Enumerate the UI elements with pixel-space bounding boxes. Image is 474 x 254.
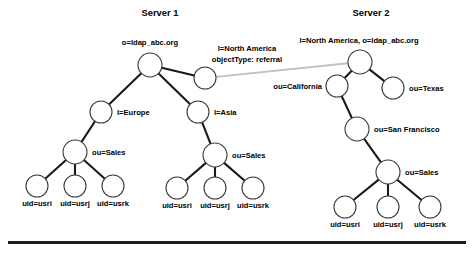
tree-node-s1-asia	[187, 101, 209, 123]
tree-node-s1-eu-sales	[63, 140, 87, 164]
node-label-lbl-s1-ref-2: objectType: referral	[212, 55, 282, 64]
tree-edge	[397, 180, 421, 200]
tree-edge	[159, 73, 191, 104]
tree-node-s1-root	[138, 53, 162, 77]
tree-edge	[82, 121, 95, 142]
tree-edge	[342, 96, 352, 118]
tree-node-s1-as-usrk	[242, 177, 264, 199]
tree-edge	[185, 163, 206, 181]
node-label-lbl-s1-ref-1: l=North America	[218, 44, 277, 53]
node-label-lbl-s1-eu-sales: ou=Sales	[92, 148, 126, 157]
node-label-lbl-s2-sales: ou=Sales	[405, 168, 439, 177]
tree-node-s1-eu-usrk	[102, 175, 124, 197]
node-label-lbl-s1-asia: l=Asia	[214, 108, 237, 117]
tree-node-s1-europe	[90, 101, 112, 123]
tree-node-s2-root	[348, 50, 372, 74]
tree-node-s1-as-sales	[203, 143, 227, 167]
tree-edge	[224, 163, 245, 181]
tree-node-s1-eu-usri	[26, 175, 48, 197]
tree-edge	[345, 71, 352, 78]
tree-edge	[364, 139, 381, 163]
referral-edge	[216, 63, 348, 77]
tree-node-s1-eu-usrj	[64, 175, 86, 197]
node-label-lbl-s2-sanfran: ou=San Francisco	[374, 125, 440, 134]
server-titles-layer: Server 1Server 2	[141, 7, 389, 18]
node-label-lbl-s1-europe: l=Europe	[117, 108, 150, 117]
tree-node-s2-sanfran	[345, 117, 369, 141]
tree-edge	[45, 160, 66, 179]
node-label-lbl-s1-as-sales: ou=Sales	[232, 151, 266, 160]
tree-node-s2-sales	[376, 160, 400, 184]
node-label-lbl-s1-as-usrj: uid=usrj	[200, 201, 230, 210]
tree-edge	[354, 180, 379, 200]
tree-node-s2-usrk	[419, 196, 441, 218]
referral-edge-layer	[216, 63, 348, 77]
node-label-lbl-s1-eu-usri: uid=usri	[22, 199, 52, 208]
tree-node-s1-as-usrj	[204, 177, 226, 199]
node-label-lbl-s1-eu-usrk: uid=usrk	[97, 199, 130, 208]
tree-node-s2-usri	[334, 196, 356, 218]
node-label-lbl-s2-root: l=North America, o=ldap_abc.org	[299, 36, 419, 45]
node-label-lbl-s1-as-usrk: uid=usrk	[237, 201, 270, 210]
ldap-referral-diagram: o=ldap_abc.orgl=North AmericaobjectType:…	[0, 0, 474, 254]
node-label-lbl-s1-as-usri: uid=usri	[162, 201, 192, 210]
node-label-lbl-s2-texas: ou=Texas	[409, 84, 444, 93]
tree-edge	[369, 69, 384, 81]
tree-edge	[202, 122, 211, 144]
node-label-lbl-s2-usri: uid=usri	[330, 220, 360, 229]
server1-title: Server 1	[141, 7, 178, 18]
tree-node-s2-california	[326, 75, 348, 97]
tree-node-s2-texas	[382, 77, 404, 99]
tree-node-s2-usrj	[377, 196, 399, 218]
tree-node-s1-as-usri	[166, 177, 188, 199]
server2-title: Server 2	[352, 7, 389, 18]
node-label-lbl-s1-eu-usrj: uid=usrj	[60, 199, 90, 208]
tree-edge	[109, 73, 141, 104]
node-label-lbl-s2-california: ou=California	[273, 82, 323, 91]
node-label-lbl-s2-usrj: uid=usrj	[373, 220, 403, 229]
footer-rule-layer	[8, 241, 466, 244]
node-label-lbl-s2-usrk: uid=usrk	[414, 220, 447, 229]
footer-divider	[8, 241, 466, 244]
tree-edge	[84, 160, 105, 179]
tree-node-s1-referral	[194, 67, 216, 89]
node-label-lbl-s1-root: o=ldap_abc.org	[122, 38, 179, 47]
tree-edge	[162, 68, 195, 76]
diagram-canvas: o=ldap_abc.orgl=North AmericaobjectType:…	[0, 0, 474, 254]
